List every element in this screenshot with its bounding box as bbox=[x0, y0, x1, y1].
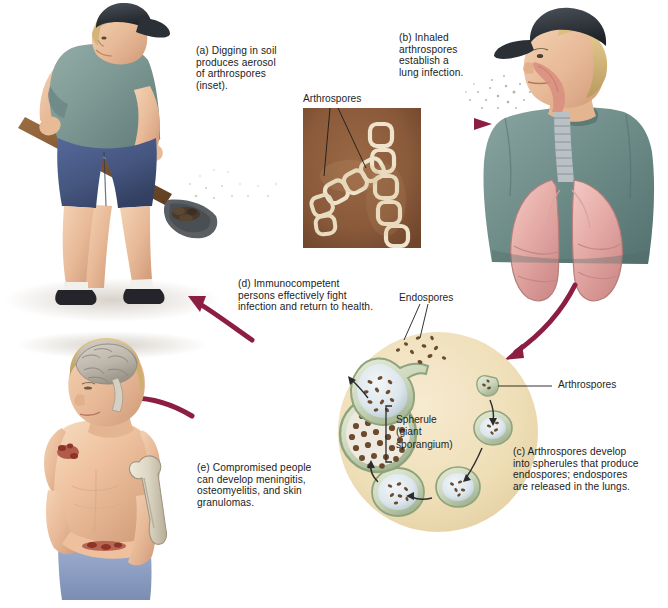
trachea bbox=[554, 112, 574, 182]
skin-lesions bbox=[57, 444, 126, 551]
released-endospores bbox=[395, 335, 446, 364]
caption-e: (e) Compromised people can develop menin… bbox=[197, 462, 345, 508]
arrow-b-to-c bbox=[504, 285, 575, 360]
ground-shadow-digger bbox=[4, 278, 220, 322]
hand-upper bbox=[36, 113, 63, 138]
nasal-passage bbox=[533, 62, 565, 112]
shoe-right bbox=[123, 289, 164, 304]
spherule-bracket bbox=[386, 406, 392, 462]
eye-closed bbox=[84, 386, 92, 389]
label-spherule: Spherule (giant sporangium) bbox=[396, 414, 468, 451]
lungs bbox=[511, 180, 622, 301]
inhaled-spore-cloud bbox=[465, 75, 531, 109]
leader-line-1 bbox=[324, 108, 330, 176]
cap-brim-2 bbox=[494, 40, 534, 59]
label-arthrospores-cycle: Arthrospores bbox=[558, 379, 616, 391]
scene-man-inhaling bbox=[465, 8, 654, 301]
endospores-leader-2 bbox=[420, 304, 428, 338]
cycle-stage-rounding bbox=[474, 411, 512, 445]
cycle-stage-maturing-spherule bbox=[372, 468, 424, 516]
leader-line-2 bbox=[338, 108, 366, 168]
caption-b: (b) Inhaled arthrospores establish a lun… bbox=[399, 32, 479, 78]
soil-clump bbox=[172, 207, 200, 221]
coccidioidomycosis-figure: (a) Digging in soil produces aerosol of … bbox=[0, 0, 668, 608]
baseball-cap bbox=[96, 3, 152, 28]
mouth bbox=[528, 82, 550, 84]
nose-2 bbox=[74, 394, 85, 406]
mouth-2 bbox=[80, 412, 100, 415]
caption-a: (a) Digging in soil produces aerosol of … bbox=[196, 45, 292, 91]
eye bbox=[537, 54, 543, 58]
cycle-stage-early-spherule bbox=[436, 467, 480, 507]
brain-cutaway bbox=[76, 340, 138, 412]
baseball-cap-2 bbox=[530, 8, 606, 46]
cycle-stage-rupturing-spherule bbox=[351, 335, 447, 425]
label-endospores: Endospores bbox=[399, 292, 453, 304]
spore-chain-vertical bbox=[370, 124, 408, 246]
arrow-inset-to-b bbox=[424, 118, 492, 130]
shovel-blade bbox=[164, 200, 217, 239]
label-inset-arthrospores: Arthrospores bbox=[303, 93, 361, 105]
caption-d: (d) Immunocompetent persons effectively … bbox=[238, 278, 402, 313]
arthrospore-micrograph-inset bbox=[303, 108, 421, 248]
caption-c: (c) Arthrospores develop into spherules … bbox=[513, 446, 665, 492]
humerus-bone-cutaway bbox=[129, 456, 166, 544]
scene-compromised-patient bbox=[44, 338, 167, 600]
arrow-to-e bbox=[120, 390, 192, 416]
nose bbox=[523, 62, 534, 74]
hand-lower bbox=[139, 140, 165, 164]
ground-shadow-patient bbox=[16, 331, 208, 359]
spore-chain-diagonal bbox=[322, 156, 386, 206]
soil-dust bbox=[189, 169, 277, 199]
cycle-stage-arthrospore bbox=[477, 376, 499, 396]
cap-brim bbox=[136, 18, 170, 38]
shoe-left bbox=[55, 290, 96, 305]
endospores-leader-1 bbox=[404, 304, 420, 340]
